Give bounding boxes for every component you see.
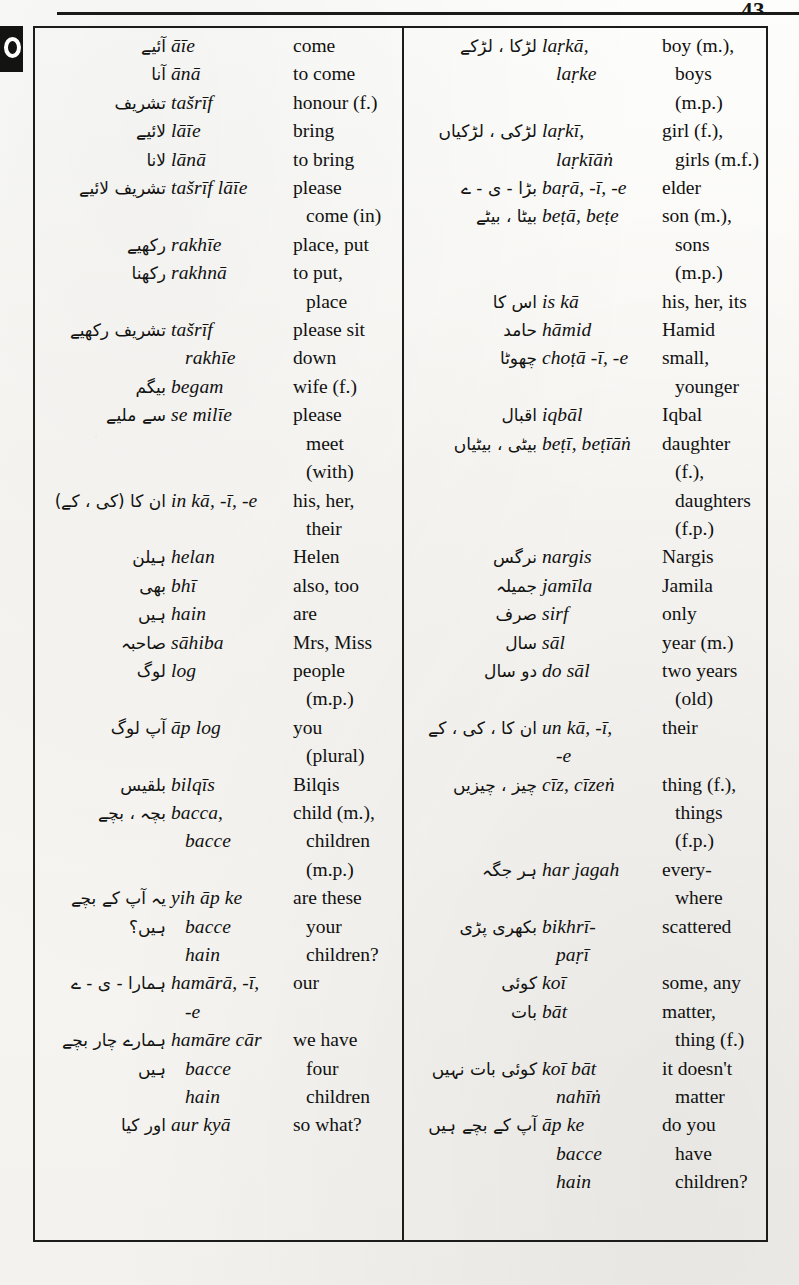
transliteration-cell: rakhīe bbox=[171, 231, 293, 259]
glossary-entry: کوئیkoīsome, any bbox=[404, 969, 766, 997]
urdu-script-cell: ہیں؟ bbox=[35, 913, 171, 941]
english-gloss-cell: four bbox=[293, 1055, 402, 1083]
urdu-script-cell: بیگم bbox=[35, 373, 171, 401]
glossary-entry: ہمارے چار بچےhamāre cārwe have bbox=[35, 1026, 402, 1054]
urdu-script-cell: ہمارے چار بچے bbox=[35, 1026, 171, 1054]
english-gloss-cell: elder bbox=[662, 174, 766, 202]
english-gloss-cell: are these bbox=[293, 884, 402, 912]
transliteration-cell: laṛkīāṅ bbox=[542, 146, 662, 174]
english-gloss-cell: come (in) bbox=[293, 202, 402, 230]
english-gloss-cell: (plural) bbox=[293, 742, 402, 770]
urdu-script-cell: آپ لوگ bbox=[35, 714, 171, 742]
glossary-entry: ان کا ، کی ، کےun kā, -ī,their bbox=[404, 714, 766, 742]
english-gloss-cell: son (m.), bbox=[662, 202, 766, 230]
glossary-entry: تشریفtašrīfhonour (f.) bbox=[35, 89, 402, 117]
transliteration-cell: bacce bbox=[171, 913, 293, 941]
urdu-script-cell: آئیے bbox=[35, 32, 171, 60]
english-gloss-cell: Hamid bbox=[662, 316, 766, 344]
urdu-script-cell: ان کا (کی ، کے) bbox=[35, 487, 171, 515]
english-gloss-cell: some, any bbox=[662, 969, 766, 997]
glossary-entry: بیٹا ، بیٹےbeṭā, beṭeson (m.), bbox=[404, 202, 766, 230]
glossary-entry: لائیےlāīebring bbox=[35, 117, 402, 145]
urdu-script-cell: بیٹا ، بیٹے bbox=[404, 202, 542, 230]
english-gloss-cell: it doesn't bbox=[662, 1055, 766, 1083]
english-gloss-cell: scattered bbox=[662, 913, 766, 941]
glossary-entry: تشریف لائیےtašrīf lāīeplease bbox=[35, 174, 402, 202]
transliteration-cell: āp log bbox=[171, 714, 293, 742]
transliteration-cell: yih āp ke bbox=[171, 884, 293, 912]
glossary-entry: بلقیسbilqīsBilqis bbox=[35, 771, 402, 799]
glossary-table: آئیےāīecomeآناānāto comeتشریفtašrīfhonou… bbox=[33, 26, 768, 1242]
english-gloss-cell: girl (f.), bbox=[662, 117, 766, 145]
transliteration-cell: tašrīf lāīe bbox=[171, 174, 293, 202]
glossary-entry: کوئی بات نہیںkoī bātit doesn't bbox=[404, 1055, 766, 1083]
urdu-script-cell: چھوٹا bbox=[404, 344, 542, 372]
english-gloss-cell: meet bbox=[293, 430, 402, 458]
urdu-script-cell: اقبال bbox=[404, 401, 542, 429]
urdu-script-cell: بڑا - ی - ے bbox=[404, 174, 542, 202]
glossary-entry: (m.p.) bbox=[35, 856, 402, 884]
english-gloss-cell: place bbox=[293, 288, 402, 316]
transliteration-cell: bacce bbox=[542, 1140, 662, 1168]
glossary-entry: آناānāto come bbox=[35, 60, 402, 88]
urdu-script-cell: بیٹی ، بیٹیاں bbox=[404, 430, 542, 458]
english-gloss-cell: place, put bbox=[293, 231, 402, 259]
transliteration-cell: sāl bbox=[542, 629, 662, 657]
transliteration-cell: aur kyā bbox=[171, 1111, 293, 1139]
urdu-script-cell: تشریف bbox=[35, 89, 171, 117]
header-rule: 43 bbox=[57, 12, 799, 15]
english-gloss-cell: their bbox=[293, 515, 402, 543]
transliteration-cell: har jagah bbox=[542, 856, 662, 884]
urdu-script-cell: سال bbox=[404, 629, 542, 657]
page-number: 43 bbox=[741, 0, 765, 13]
thumb-index-ring-icon bbox=[4, 37, 21, 58]
glossary-entry: آپ لوگāp logyou bbox=[35, 714, 402, 742]
urdu-script-cell: بچہ ، بچے bbox=[35, 799, 171, 827]
glossary-entry: صرفsirfonly bbox=[404, 600, 766, 628]
glossary-entry: where bbox=[404, 884, 766, 912]
english-gloss-cell: people bbox=[293, 657, 402, 685]
glossary-entry: لڑکا ، لڑکےlaṛkā,boy (m.), bbox=[404, 32, 766, 60]
english-gloss-cell: boy (m.), bbox=[662, 32, 766, 60]
transliteration-cell: rakhīe bbox=[171, 344, 293, 372]
glossary-entry: اقبالiqbālIqbal bbox=[404, 401, 766, 429]
glossary-entry: (m.p.) bbox=[404, 259, 766, 287]
glossary-entry: paṛī bbox=[404, 941, 766, 969]
english-gloss-cell: Iqbal bbox=[662, 401, 766, 429]
english-gloss-cell: bring bbox=[293, 117, 402, 145]
transliteration-cell: rakhnā bbox=[171, 259, 293, 287]
glossary-entry: صاحبہsāhibaMrs, Miss bbox=[35, 629, 402, 657]
glossary-entry: تشریف رکھیےtašrīfplease sit bbox=[35, 316, 402, 344]
glossary-entry: بڑا - ی - ےbaṛā, -ī, -eelder bbox=[404, 174, 766, 202]
english-gloss-cell: (m.p.) bbox=[662, 89, 766, 117]
urdu-script-cell: ہر جگہ bbox=[404, 856, 542, 884]
urdu-script-cell: آپ کے بچے ہیں bbox=[404, 1111, 542, 1139]
urdu-script-cell: تشریف لائیے bbox=[35, 174, 171, 202]
glossary-entry: سالsālyear (m.) bbox=[404, 629, 766, 657]
english-gloss-cell: children? bbox=[293, 941, 402, 969]
english-gloss-cell: girls (m.f.) bbox=[662, 146, 766, 174]
urdu-script-cell: ہیں bbox=[35, 600, 171, 628]
english-gloss-cell: sons bbox=[662, 231, 766, 259]
english-gloss-cell: thing (f.), bbox=[662, 771, 766, 799]
urdu-script-cell: کوئی بات نہیں bbox=[404, 1055, 542, 1083]
glossary-entry: نرگسnargisNargis bbox=[404, 543, 766, 571]
english-gloss-cell: every- bbox=[662, 856, 766, 884]
transliteration-cell: is kā bbox=[542, 288, 662, 316]
urdu-script-cell: بات bbox=[404, 998, 542, 1026]
transliteration-cell: paṛī bbox=[542, 941, 662, 969]
urdu-script-cell: آنا bbox=[35, 60, 171, 88]
english-gloss-cell: his, her, its bbox=[662, 288, 766, 316]
english-gloss-cell: are bbox=[293, 600, 402, 628]
transliteration-cell: nahīṅ bbox=[542, 1083, 662, 1111]
glossary-entry: laṛkīāṅgirls (m.f.) bbox=[404, 146, 766, 174]
english-gloss-cell: matter, bbox=[662, 998, 766, 1026]
glossary-entry: اور کیاaur kyāso what? bbox=[35, 1111, 402, 1139]
transliteration-cell: -e bbox=[171, 998, 293, 1026]
glossary-entry: (with) bbox=[35, 458, 402, 486]
english-gloss-cell: daughter bbox=[662, 430, 766, 458]
english-gloss-cell: do you bbox=[662, 1111, 766, 1139]
glossary-entry: بچہ ، بچےbacca,child (m.), bbox=[35, 799, 402, 827]
glossary-entry: دو سالdo sāltwo years bbox=[404, 657, 766, 685]
transliteration-cell: cīz, cīzeṅ bbox=[542, 771, 662, 799]
